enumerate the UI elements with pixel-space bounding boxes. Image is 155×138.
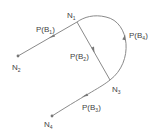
edge-b3: [52, 80, 110, 116]
arrow-b4-icon: [122, 35, 125, 41]
node-n2-label: N2: [12, 63, 21, 73]
node-n2-dot: [17, 55, 20, 58]
node-n3-label: N3: [112, 85, 121, 95]
node-n4-dot: [51, 115, 54, 118]
edge-b3-label: P(B3): [82, 103, 101, 113]
edge-b2-label: P(B2): [70, 52, 89, 62]
node-n4-label: N4: [44, 120, 53, 130]
branch-graph-diagram: N1 N2 N3 N4 P(B1) P(B2) P(B4) P(B3): [0, 0, 155, 138]
edge-b1-label: P(B1): [36, 25, 55, 35]
node-n1-label: N1: [67, 11, 76, 21]
edge-b2: [77, 22, 110, 80]
edge-b4: [77, 16, 126, 80]
edge-b4-label: P(B4): [129, 31, 148, 41]
